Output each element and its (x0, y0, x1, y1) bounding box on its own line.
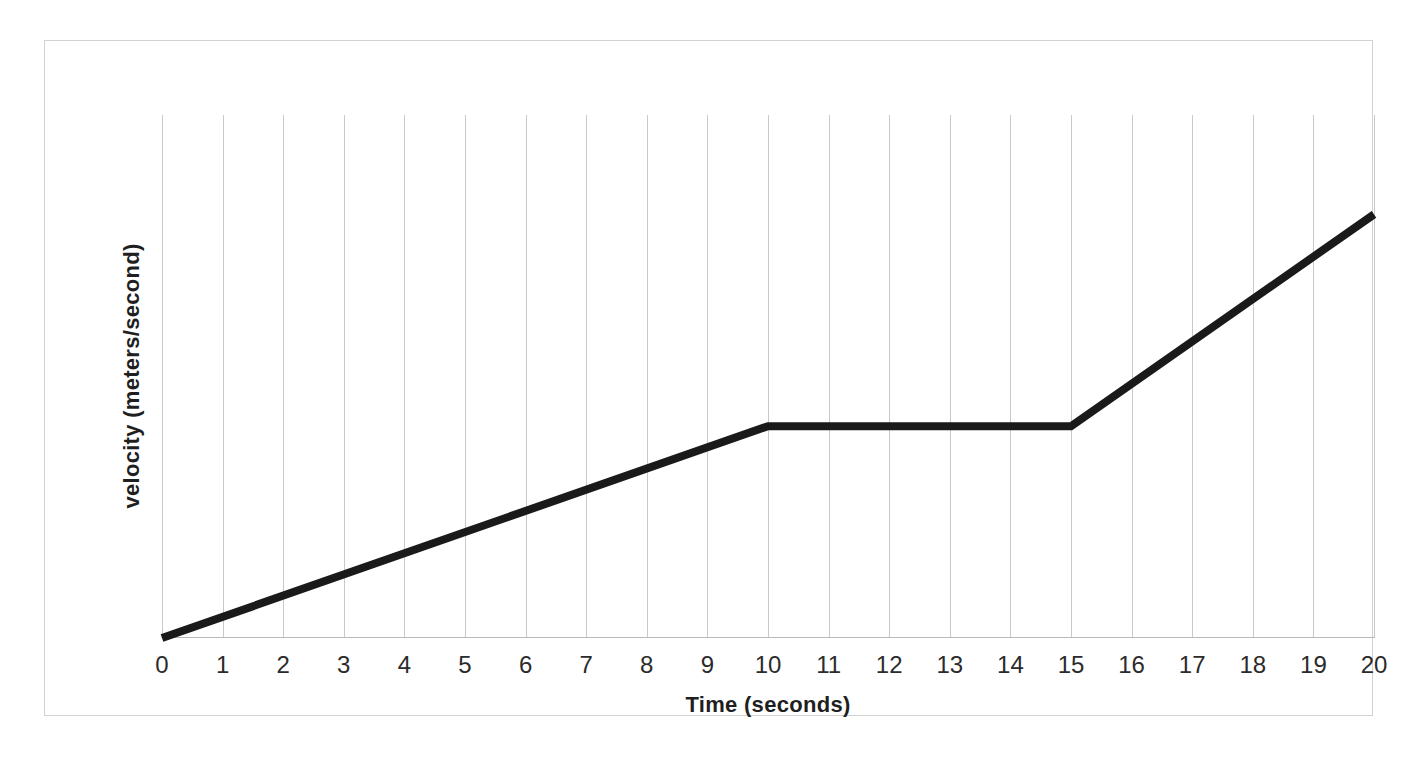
gridline-vertical (465, 115, 466, 638)
x-tick-label: 15 (1041, 648, 1101, 682)
gridline-vertical (1374, 115, 1375, 638)
x-tick-label: 1 (193, 648, 253, 682)
x-tick-label: 12 (859, 648, 919, 682)
x-tick-label: 16 (1102, 648, 1162, 682)
x-tick-label: 20 (1344, 648, 1404, 682)
gridline-vertical (404, 115, 405, 638)
plot-area (162, 115, 1374, 638)
y-axis-title: velocity (meters/second) (119, 114, 145, 638)
gridline-vertical (1010, 115, 1011, 638)
gridline-vertical (1253, 115, 1254, 638)
x-tick-label: 4 (374, 648, 434, 682)
x-tick-label: 18 (1223, 648, 1283, 682)
chart-frame: 01234567891011121314151617181920 Time (s… (44, 40, 1373, 716)
gridline-vertical (1132, 115, 1133, 638)
x-axis-tick-labels: 01234567891011121314151617181920 (162, 648, 1374, 682)
gridline-vertical (707, 115, 708, 638)
gridline-vertical (889, 115, 890, 638)
x-axis-line (162, 637, 1375, 638)
x-tick-label: 9 (677, 648, 737, 682)
x-tick-label: 19 (1283, 648, 1343, 682)
x-tick-label: 11 (799, 648, 859, 682)
gridline-vertical (344, 115, 345, 638)
gridline-vertical (647, 115, 648, 638)
gridline-vertical (526, 115, 527, 638)
x-tick-label: 14 (980, 648, 1040, 682)
gridline-vertical (1192, 115, 1193, 638)
gridline-vertical (586, 115, 587, 638)
x-tick-label: 17 (1162, 648, 1222, 682)
x-tick-label: 10 (738, 648, 798, 682)
gridline-vertical (223, 115, 224, 638)
gridline-vertical (162, 115, 163, 638)
gridline-vertical (1313, 115, 1314, 638)
x-axis-title: Time (seconds) (162, 692, 1374, 718)
gridline-vertical (829, 115, 830, 638)
x-tick-label: 7 (556, 648, 616, 682)
x-tick-label: 8 (617, 648, 677, 682)
gridline-vertical (768, 115, 769, 638)
x-tick-label: 2 (253, 648, 313, 682)
x-tick-label: 13 (920, 648, 980, 682)
gridline-vertical (1071, 115, 1072, 638)
x-tick-label: 5 (435, 648, 495, 682)
gridline-vertical (283, 115, 284, 638)
gridline-vertical (950, 115, 951, 638)
x-tick-label: 6 (496, 648, 556, 682)
x-tick-label: 3 (314, 648, 374, 682)
x-tick-label: 0 (132, 648, 192, 682)
